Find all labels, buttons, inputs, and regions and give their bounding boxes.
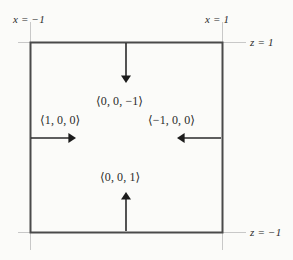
axis-label-z-bottom: z = −1 [250, 227, 281, 238]
axis-label-x-right: x = 1 [205, 14, 229, 25]
normal-vectors [31, 43, 221, 231]
axis-label-x-left: x = −1 [13, 14, 45, 25]
vector-label-right: ⟨−1, 0, 0⟩ [148, 114, 195, 126]
axis-label-z-top: z = 1 [250, 37, 274, 48]
guide-lines [18, 22, 246, 250]
vector-field-figure: x = −1 x = 1 z = 1 z = −1 ⟨0, 0, −1⟩ ⟨1,… [0, 0, 293, 260]
vector-label-top: ⟨0, 0, −1⟩ [96, 95, 143, 107]
vector-label-bottom: ⟨0, 0, 1⟩ [100, 171, 140, 183]
vector-label-left: ⟨1, 0, 0⟩ [40, 114, 80, 126]
